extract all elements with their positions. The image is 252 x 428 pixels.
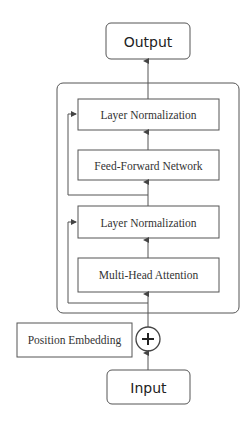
input-node: Input: [107, 370, 190, 404]
transformer-encoder-diagram: Output Layer Normalization Feed-Forward …: [0, 0, 252, 428]
output-node: Output: [106, 23, 190, 59]
add-node: [136, 327, 160, 351]
input-label: Input: [130, 380, 167, 396]
position-embedding-node: Position Embedding: [17, 323, 132, 357]
layer-norm-top-label: Layer Normalization: [100, 109, 196, 122]
multi-head-attention-label: Multi-Head Attention: [99, 269, 199, 281]
feed-forward-node: Feed-Forward Network: [78, 150, 219, 180]
position-embedding-label: Position Embedding: [28, 334, 122, 347]
layer-norm-top-node: Layer Normalization: [78, 99, 219, 130]
layer-norm-bottom-label: Layer Normalization: [100, 217, 196, 230]
multi-head-attention-node: Multi-Head Attention: [78, 258, 219, 292]
layer-norm-bottom-node: Layer Normalization: [78, 206, 219, 238]
output-label: Output: [124, 34, 173, 50]
feed-forward-label: Feed-Forward Network: [94, 160, 203, 172]
